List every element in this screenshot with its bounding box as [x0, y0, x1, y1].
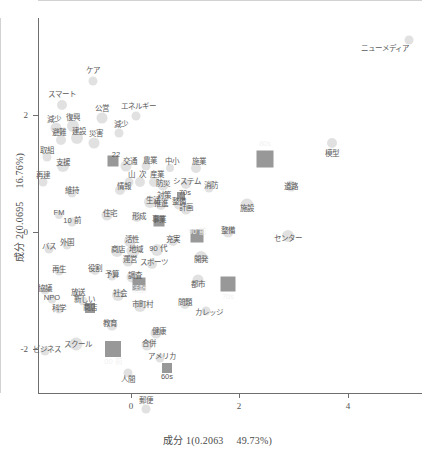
data-point-label: 施設	[240, 205, 254, 213]
zero-line-horizontal	[38, 0, 422, 1]
y-axis-title: 成分 2(0.0695 16.76%)	[11, 118, 26, 298]
data-point-label: 減少	[114, 121, 128, 129]
data-point-label: 開発	[194, 256, 208, 264]
data-point-label: 交通	[123, 158, 137, 166]
data-point-label: スクール	[64, 341, 92, 349]
data-point-label: 外国	[60, 239, 74, 247]
data-point-label: センター	[274, 235, 302, 243]
data-point-label: 産業	[150, 171, 164, 179]
data-point-marker	[257, 151, 274, 168]
x-axis-title: 成分 1(0.2063 49.73%)	[0, 432, 435, 447]
data-point-marker	[89, 138, 100, 149]
data-point-label: 70s	[179, 189, 191, 197]
data-point-label: 調査	[128, 272, 142, 280]
data-point-label: 住宅	[103, 210, 117, 218]
data-point-label: スポーツ	[140, 259, 168, 267]
data-point-label: 生活	[146, 197, 160, 205]
data-point-marker	[405, 36, 414, 45]
data-point-label: 市町村	[132, 301, 153, 309]
data-point-label: 活動	[132, 286, 146, 294]
y-tick-mark	[33, 349, 38, 350]
data-point-marker	[57, 100, 67, 110]
data-point-label: 商店	[83, 304, 97, 312]
data-point-label: 90 代	[149, 245, 166, 253]
data-point-label: 整備	[221, 227, 235, 235]
data-point-marker	[105, 341, 121, 357]
data-point-label: 70s	[222, 293, 234, 301]
data-point-label: システム	[173, 178, 201, 186]
data-point-label: 60s	[161, 373, 173, 381]
data-point-label: 充実	[166, 236, 180, 244]
scatter-plot: ニューメディアケアスマート模型公営エネルギー復興減少減少 建設避難災害取組支援2…	[0, 0, 435, 463]
data-point-label: 計画	[179, 204, 193, 212]
data-point-label: 合併	[142, 340, 156, 348]
data-point-label: 建設	[72, 128, 86, 136]
x-tick-label: 2	[226, 401, 252, 411]
data-point-label: 科学	[52, 305, 66, 313]
data-point-label: 災害	[89, 130, 103, 138]
y-axis-spine	[38, 18, 39, 393]
data-point-marker	[115, 129, 124, 138]
data-point-label: 健康	[152, 328, 166, 336]
data-point-label: 22	[112, 151, 120, 159]
data-point-label: 形成	[132, 213, 146, 221]
data-point-label: 予算	[105, 271, 119, 279]
data-point-label: スマート	[48, 91, 76, 99]
x-tick-label: 0	[118, 401, 144, 411]
x-tick-mark	[239, 393, 240, 398]
data-point-label: NPO	[44, 294, 60, 302]
data-point-label: 山	[128, 171, 135, 179]
y-tick-mark	[33, 115, 38, 116]
x-tick-label: 4	[335, 401, 361, 411]
data-point-label: 商店	[111, 246, 125, 254]
y-tick-label: -2	[2, 344, 28, 354]
data-point-label: 次	[139, 171, 146, 179]
data-point-label: 問題	[178, 299, 192, 307]
data-point-label: 支援	[56, 159, 70, 167]
data-point-label: 役割	[88, 265, 102, 273]
data-point-label: 減少	[47, 116, 61, 124]
data-point-label: バス	[42, 243, 56, 251]
data-point-label: 情報	[117, 183, 131, 191]
data-point-marker	[132, 112, 141, 121]
data-point-label: 取組	[40, 147, 54, 155]
data-point-label: 道路	[284, 183, 298, 191]
data-point-label: 80s	[259, 140, 271, 148]
data-point-marker	[89, 77, 98, 86]
data-point-label: エネルギー	[121, 103, 156, 111]
data-point-marker	[221, 277, 236, 292]
data-point-label: 消防	[204, 182, 218, 190]
data-point-label: 人間	[121, 376, 135, 384]
data-point-label: 維持	[65, 187, 79, 195]
data-point-label: 90 前	[188, 228, 205, 236]
data-point-label: 再生	[52, 266, 66, 274]
data-point-label: 運営	[123, 256, 137, 264]
x-axis-spine	[38, 393, 422, 394]
data-point-marker	[327, 138, 337, 148]
data-point-label: 教育	[103, 320, 117, 328]
data-point-label: 復興	[66, 114, 80, 122]
data-point-label: ケア	[86, 67, 100, 75]
data-point-label: 協議	[38, 285, 52, 293]
zero-line-vertical	[0, 18, 1, 393]
data-point-label: 地域	[129, 246, 143, 254]
y-tick-mark	[33, 232, 38, 233]
data-point-label: 公営	[95, 105, 109, 113]
data-point-label: 中小	[165, 158, 179, 166]
data-point-label: 農業	[143, 157, 157, 165]
data-point-label: 模型	[325, 150, 339, 158]
data-point-label: 事業	[152, 216, 166, 224]
data-point-label: 防災	[156, 180, 170, 188]
data-point-label: アメリカ	[148, 353, 176, 361]
data-point-label: 社会	[113, 290, 127, 298]
data-point-label: 避難	[52, 129, 66, 137]
data-point-label: 活性	[125, 236, 139, 244]
data-point-label: 00 前	[104, 358, 121, 366]
x-tick-mark	[131, 393, 132, 398]
x-tick-mark	[348, 393, 349, 398]
data-point-label: 10 前	[63, 217, 80, 225]
data-point-marker	[97, 113, 108, 124]
data-point-label: ニューメディア	[361, 45, 409, 53]
data-point-label: 都市	[191, 281, 205, 289]
data-point-label: カレッジ	[195, 309, 223, 317]
